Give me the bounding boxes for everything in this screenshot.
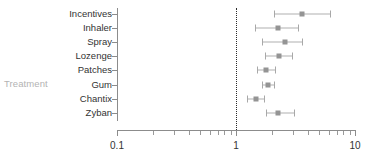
ci-lower-cap [255, 24, 256, 31]
estimate-marker [282, 39, 287, 44]
ci-lower-cap [262, 38, 263, 45]
x-axis-tick-minor [329, 131, 330, 135]
x-axis-tick-minor [153, 131, 154, 135]
estimate-marker [299, 11, 304, 16]
x-axis-tick-label: 0.1 [110, 141, 124, 151]
x-axis-tick-minor [308, 131, 309, 135]
ci-upper-cap [294, 109, 295, 116]
x-axis-tick-minor [350, 131, 351, 135]
ci-upper-cap [275, 67, 276, 74]
ci-upper-cap [292, 53, 293, 60]
y-axis-tick [112, 14, 117, 15]
ci-lower-cap [262, 81, 263, 88]
forest-plot: Treatment IncentivesInhalerSprayLozengeP… [0, 0, 369, 167]
ci-upper-cap [274, 81, 275, 88]
y-axis-tick [112, 113, 117, 114]
y-axis-tick [112, 56, 117, 57]
ci-lower-cap [274, 10, 275, 17]
x-axis-tick-minor [224, 131, 225, 135]
x-axis-tick-minor [337, 131, 338, 135]
ci-lower-cap [266, 109, 267, 116]
ci-upper-cap [264, 95, 265, 102]
y-axis-tick [112, 99, 117, 100]
ci-lower-cap [247, 95, 248, 102]
estimate-marker [263, 68, 268, 73]
ci-upper-cap [298, 24, 299, 31]
y-axis-spine [117, 8, 118, 121]
x-axis-tick-minor [272, 131, 273, 135]
estimate-marker [254, 96, 259, 101]
estimate-marker [266, 82, 271, 87]
ci-upper-cap [302, 38, 303, 45]
estimate-marker [275, 25, 280, 30]
estimate-marker [277, 54, 282, 59]
reference-line [236, 8, 237, 132]
ci-upper-cap [330, 10, 331, 17]
x-axis-tick-major [236, 131, 237, 136]
x-axis-tick-minor [189, 131, 190, 135]
x-axis-tick-minor [231, 131, 232, 135]
x-axis-tick-label: 1 [233, 141, 239, 151]
y-axis-tick [112, 85, 117, 86]
x-axis-tick-minor [343, 131, 344, 135]
x-axis-tick-minor [319, 131, 320, 135]
x-axis-tick-major [355, 131, 356, 136]
ci-lower-cap [257, 67, 258, 74]
x-axis-tick-minor [293, 131, 294, 135]
estimate-marker [275, 110, 280, 115]
x-axis-tick-minor [174, 131, 175, 135]
x-axis-tick-minor [210, 131, 211, 135]
ci-lower-cap [265, 53, 266, 60]
y-axis-tick [112, 28, 117, 29]
plot-area: 0.1110 [0, 0, 369, 167]
x-axis-tick-minor [200, 131, 201, 135]
y-axis-tick [112, 70, 117, 71]
x-axis-tick-minor [218, 131, 219, 135]
x-axis-tick-label: 10 [349, 141, 360, 151]
y-axis-tick [112, 42, 117, 43]
x-axis-tick-major [117, 131, 118, 136]
